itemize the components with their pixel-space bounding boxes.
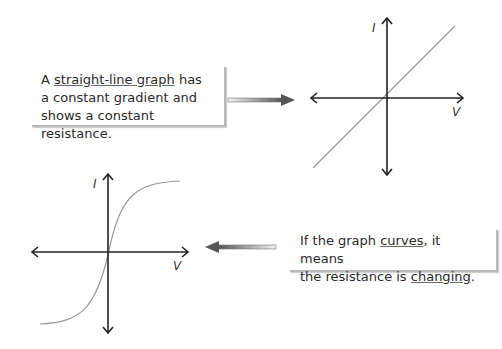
- y-axis-label: I: [93, 177, 97, 191]
- right-arrow-icon: [228, 94, 295, 106]
- straight-line-plot: [313, 26, 455, 168]
- x-axis-label: V: [452, 105, 461, 119]
- curved-iv-graph: I V: [32, 174, 188, 333]
- linear-iv-graph: I V: [311, 18, 463, 175]
- x-axis-label: V: [173, 259, 182, 273]
- diagram-canvas: I V I V: [0, 0, 502, 349]
- y-axis-label: I: [372, 21, 376, 35]
- left-arrow-icon: [205, 241, 276, 253]
